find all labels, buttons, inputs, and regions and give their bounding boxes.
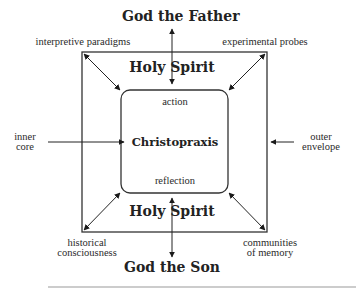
label-interpretive-paradigms: interpretive paradigms [28,37,138,47]
label-holy-spirit-top: Holy Spirit [122,62,222,72]
arrow-bottom-right-diagonal [229,193,265,230]
label-christopraxis: Christopraxis [130,137,220,147]
label-god-the-father: God the Father [122,11,222,21]
arrow-top-left-diagonal [84,54,120,90]
label-action: action [145,97,205,107]
label-god-the-son: God the Son [122,262,222,272]
label-outer-envelope-2: envelope [296,142,346,152]
label-historical-2: consciousness [42,248,132,258]
label-experimental-probes: experimental probes [210,37,320,47]
label-holy-spirit-bottom: Holy Spirit [122,206,222,216]
label-reflection: reflection [140,176,210,186]
arrow-top-right-diagonal [229,54,265,90]
arrow-bottom-left-diagonal [84,193,120,230]
label-inner-core-2: core [10,142,40,152]
label-communities-2: of memory [225,248,315,258]
